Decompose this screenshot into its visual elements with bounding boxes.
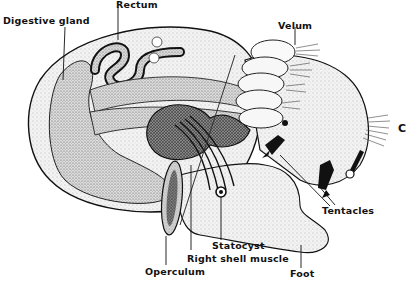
statocyst bbox=[216, 187, 226, 197]
veliger-larva-illustration bbox=[0, 0, 411, 282]
label-digestive-gland: Digestive gland bbox=[3, 15, 90, 26]
label-right-shell-muscle: Right shell muscle bbox=[187, 253, 289, 264]
panel-letter: C bbox=[398, 122, 406, 135]
label-statocyst: Statocyst bbox=[212, 240, 265, 251]
label-rectum: Rectum bbox=[116, 0, 158, 10]
label-foot: Foot bbox=[290, 268, 315, 279]
label-operculum: Operculum bbox=[145, 266, 205, 277]
label-tentacles: Tentacles bbox=[322, 205, 374, 216]
label-velum: Velum bbox=[278, 20, 312, 31]
